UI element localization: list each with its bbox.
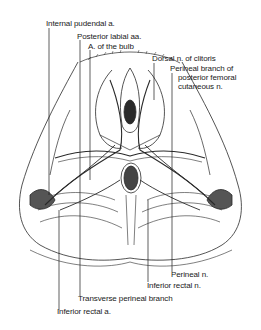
label-transverse-perineal-branch: Transverse perineal branch — [78, 294, 173, 303]
anus — [124, 166, 138, 190]
label-perineal-branch-line3: cutaneous n. — [178, 82, 223, 91]
label-perineal-branch-line1: Perineal branch of — [170, 64, 233, 73]
label-posterior-labial-aa: Posterior labial aa. — [77, 32, 141, 41]
label-a-of-the-bulb: A. of the bulb — [88, 42, 134, 51]
label-inferior-rectal-n: Inferior rectal n. — [147, 281, 201, 290]
label-dorsal-n-of-clitoris: Dorsal n. of clitoris — [152, 54, 216, 63]
label-internal-pudendal-a: Internal pudendal a. — [46, 19, 115, 28]
labium-right — [138, 70, 164, 148]
vaginal-orifice — [124, 100, 136, 124]
transverse-perineal — [55, 151, 205, 158]
labium-left — [96, 70, 122, 148]
label-perineal-branch-line2: posterior femoral — [178, 73, 236, 82]
label-inferior-rectal-a: Inferior rectal a. — [57, 307, 111, 316]
label-perineal-n: Perineal n. — [171, 270, 208, 279]
